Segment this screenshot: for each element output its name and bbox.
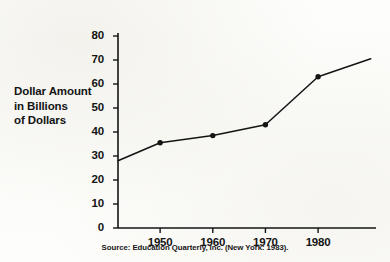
data-point-marker xyxy=(315,74,320,79)
source-note: Source: Education Quarterly, Inc. (New Y… xyxy=(0,243,390,252)
data-line xyxy=(118,59,371,161)
y-tick-label: 70 xyxy=(82,53,104,65)
data-point-marker xyxy=(157,140,162,145)
y-tick-label: 60 xyxy=(82,77,104,89)
y-tick-label: 40 xyxy=(82,125,104,137)
axes-group xyxy=(118,33,376,228)
y-tick-label: 20 xyxy=(82,173,104,185)
data-point-marker xyxy=(210,133,215,138)
figure-container: Dollar Amount in Billions of Dollars 010… xyxy=(0,0,390,262)
y-tick-label: 0 xyxy=(82,221,104,233)
y-tick-label: 30 xyxy=(82,149,104,161)
y-tick-label: 10 xyxy=(82,197,104,209)
y-tick-label: 50 xyxy=(82,101,104,113)
data-point-marker xyxy=(263,122,268,127)
data-point-markers xyxy=(157,74,320,145)
line-chart-plot xyxy=(0,0,390,262)
y-tick-label: 80 xyxy=(82,29,104,41)
